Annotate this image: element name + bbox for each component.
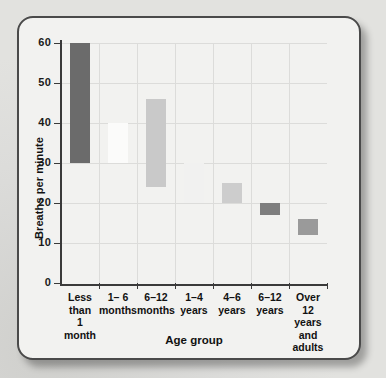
bar-3 — [184, 163, 204, 203]
y-tick-mark — [54, 243, 60, 244]
y-tick-label: 0 — [27, 276, 51, 288]
x-tick-mark — [99, 283, 100, 289]
gridline-horizontal — [61, 243, 327, 244]
y-tick-mark — [54, 283, 60, 284]
bar-1 — [108, 123, 128, 163]
y-tick-label: 30 — [27, 156, 51, 168]
bar-5 — [260, 203, 280, 215]
bar-6 — [298, 219, 318, 235]
gridline-vertical — [289, 43, 290, 283]
bar-4 — [222, 183, 242, 203]
x-tick-mark — [251, 283, 252, 289]
gridline-horizontal — [61, 203, 327, 204]
y-tick-label: 50 — [27, 76, 51, 88]
gridline-horizontal — [61, 43, 327, 44]
y-tick-mark — [54, 163, 60, 164]
y-tick-label: 20 — [27, 196, 51, 208]
x-tick-mark — [175, 283, 176, 289]
gridline-vertical — [213, 43, 214, 283]
gridline-vertical — [175, 43, 176, 283]
gridline-horizontal — [61, 123, 327, 124]
x-tick-mark — [289, 283, 290, 289]
y-axis-line — [60, 40, 62, 286]
gridline-vertical — [99, 43, 100, 283]
x-axis-line — [60, 284, 328, 286]
bar-2 — [146, 99, 166, 187]
y-tick-mark — [54, 83, 60, 84]
y-tick-label: 60 — [27, 36, 51, 48]
gridline-vertical — [251, 43, 252, 283]
x-axis-title: Age group — [61, 334, 327, 346]
x-tick-mark — [137, 283, 138, 289]
y-tick-mark — [54, 43, 60, 44]
y-tick-label: 40 — [27, 116, 51, 128]
gridline-horizontal — [61, 83, 327, 84]
bar-0 — [70, 43, 90, 163]
gridline-vertical — [137, 43, 138, 283]
chart-card: Breaths per minute 0102030405060 Less th… — [17, 16, 361, 360]
x-tick-mark — [327, 283, 328, 289]
x-tick-mark — [213, 283, 214, 289]
y-tick-mark — [54, 203, 60, 204]
plot-area — [61, 43, 327, 283]
y-tick-label: 10 — [27, 236, 51, 248]
y-tick-mark — [54, 123, 60, 124]
